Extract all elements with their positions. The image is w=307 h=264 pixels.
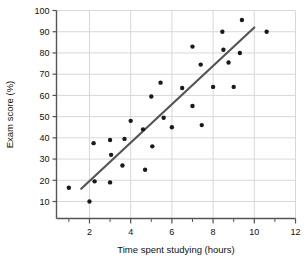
x-tick-label: 8 (211, 227, 216, 237)
y-tick-label: 50 (39, 112, 49, 122)
y-tick-label: 40 (39, 133, 49, 143)
gridlines (57, 11, 296, 219)
x-tick-label: 2 (87, 227, 92, 237)
chart-canvas: 10203040506070809010024681012Time spent … (0, 0, 307, 264)
data-point (158, 80, 162, 84)
data-point (91, 141, 95, 145)
data-point (67, 186, 71, 190)
data-point (120, 163, 124, 167)
data-point (220, 30, 224, 34)
data-point (141, 127, 145, 131)
x-tick-label: 4 (128, 227, 133, 237)
data-point (190, 44, 194, 48)
data-point (108, 180, 112, 184)
data-point (109, 153, 113, 157)
data-point (240, 18, 244, 22)
x-axis-title: Time spent studying (hours) (117, 244, 234, 255)
data-point (231, 85, 235, 89)
data-point (200, 123, 204, 127)
axes (57, 11, 296, 219)
data-point (211, 85, 215, 89)
data-point (150, 144, 154, 148)
y-axis-ticks: 102030405060708090100 (34, 6, 56, 207)
data-point (190, 104, 194, 108)
data-point (226, 60, 230, 64)
data-point (108, 138, 112, 142)
x-tick-label: 12 (290, 227, 300, 237)
x-axis-ticks: 24681012 (69, 219, 301, 237)
trendline (81, 27, 254, 188)
data-point (221, 48, 225, 52)
data-point (199, 62, 203, 66)
y-tick-label: 30 (39, 154, 49, 164)
y-tick-label: 90 (39, 27, 49, 37)
x-tick-label: 10 (249, 227, 259, 237)
data-points (67, 18, 269, 204)
data-point (87, 199, 91, 203)
y-tick-label: 80 (39, 48, 49, 58)
y-tick-label: 60 (39, 91, 49, 101)
data-point (238, 51, 242, 55)
data-point (264, 30, 268, 34)
y-axis-title: Exam score (%) (4, 81, 15, 149)
y-tick-label: 70 (39, 69, 49, 79)
data-point (128, 119, 132, 123)
data-point (149, 94, 153, 98)
data-point (170, 125, 174, 129)
data-point (161, 115, 165, 119)
data-point (143, 167, 147, 171)
y-tick-label: 100 (34, 6, 49, 16)
y-tick-label: 10 (39, 197, 49, 207)
data-point (122, 137, 126, 141)
data-point (92, 179, 96, 183)
data-point (180, 86, 184, 90)
scatter-chart: 10203040506070809010024681012Time spent … (0, 0, 307, 264)
x-tick-label: 6 (169, 227, 174, 237)
y-tick-label: 20 (39, 176, 49, 186)
